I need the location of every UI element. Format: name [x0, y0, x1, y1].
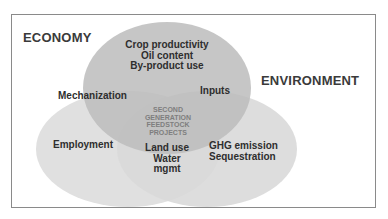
- employment-label: Employment: [53, 140, 113, 151]
- mechanization-label: Mechanization: [58, 91, 127, 102]
- right-region-text: GHG emission Sequestration: [209, 141, 278, 162]
- land-use-label: Land use: [140, 143, 194, 154]
- crop-productivity-label: Crop productivity: [112, 40, 222, 51]
- top-region-text: Crop productivity Oil content By-product…: [112, 40, 222, 72]
- economy-title: ECONOMY: [23, 31, 92, 45]
- center-line-4: PROJECTS: [140, 129, 196, 137]
- environment-title: ENVIRONMENT: [261, 74, 359, 88]
- ghg-emission-label: GHG emission: [209, 141, 278, 152]
- center-line-2: GENERATION: [140, 114, 196, 122]
- sequestration-label: Sequestration: [209, 152, 278, 163]
- inputs-label: Inputs: [200, 86, 230, 97]
- bottom-overlap-text: Land use Water mgmt: [140, 143, 194, 175]
- center-line-1: SECOND: [140, 106, 196, 114]
- mgmt-label: mgmt: [140, 164, 194, 175]
- by-product-use-label: By-product use: [112, 61, 222, 72]
- center-line-3: FEEDSTOCK: [140, 121, 196, 129]
- center-label: SECOND GENERATION FEEDSTOCK PROJECTS: [140, 106, 196, 137]
